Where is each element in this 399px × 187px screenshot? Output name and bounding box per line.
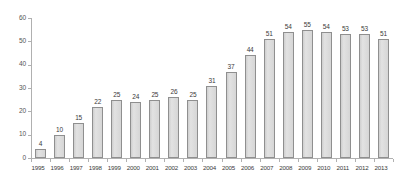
bar-slot: 53 xyxy=(336,18,355,158)
bar-value-label: 25 xyxy=(182,92,203,99)
x-axis-tick xyxy=(145,159,146,162)
bar[interactable] xyxy=(206,86,217,158)
bar-value-label: 26 xyxy=(163,89,184,96)
x-axis-tick xyxy=(69,159,70,162)
bar[interactable] xyxy=(378,39,389,158)
y-axis-tick-label: 20 xyxy=(6,108,26,115)
bar[interactable] xyxy=(92,107,103,158)
x-axis-tick xyxy=(355,159,356,162)
bar-slot: 37 xyxy=(222,18,241,158)
x-axis-tick xyxy=(298,159,299,162)
bar[interactable] xyxy=(73,123,84,158)
bar[interactable] xyxy=(302,30,313,158)
bar-slot: 24 xyxy=(126,18,145,158)
bar-slot: 51 xyxy=(260,18,279,158)
y-axis-tick-label: 0 xyxy=(6,155,26,162)
x-axis-tick xyxy=(202,159,203,162)
bar[interactable] xyxy=(340,34,351,158)
bar[interactable] xyxy=(168,97,179,158)
y-axis-tick-label: 60 xyxy=(6,15,26,22)
x-axis-tick xyxy=(241,159,242,162)
bar-value-label: 10 xyxy=(49,127,70,134)
bar-value-label: 53 xyxy=(335,26,356,33)
x-axis-tick xyxy=(183,159,184,162)
bar[interactable] xyxy=(54,135,65,158)
bar-value-label: 51 xyxy=(373,31,394,38)
bar-slot: 51 xyxy=(374,18,393,158)
bar-slot: 25 xyxy=(107,18,126,158)
bar-slot: 22 xyxy=(88,18,107,158)
bar-slot: 26 xyxy=(164,18,183,158)
x-axis-tick xyxy=(50,159,51,162)
x-axis-tick xyxy=(393,159,394,162)
y-axis-tick-label: 40 xyxy=(6,61,26,68)
bar-value-label: 15 xyxy=(68,115,89,122)
bar[interactable] xyxy=(359,34,370,158)
bar-value-label: 24 xyxy=(125,94,146,101)
bar-chart: 0102030405060 41015222524252625313744515… xyxy=(0,0,399,187)
bar-value-label: 31 xyxy=(202,78,223,85)
bar[interactable] xyxy=(321,32,332,158)
x-axis-tick xyxy=(88,159,89,162)
x-axis-tick xyxy=(222,159,223,162)
bar-slot: 54 xyxy=(317,18,336,158)
bar-slot: 25 xyxy=(183,18,202,158)
x-axis-labels: 1995199619971998199920002001200220032004… xyxy=(31,165,393,177)
bar[interactable] xyxy=(130,102,141,158)
bar-slot: 53 xyxy=(355,18,374,158)
bar-slot: 25 xyxy=(145,18,164,158)
bar[interactable] xyxy=(187,100,198,158)
bar-slot: 10 xyxy=(50,18,69,158)
y-axis-tick-label: 10 xyxy=(6,131,26,138)
bar-slot: 15 xyxy=(69,18,88,158)
bar-value-label: 4 xyxy=(30,141,51,148)
x-axis-tick xyxy=(31,159,32,162)
bar-slot: 44 xyxy=(241,18,260,158)
x-axis-tick xyxy=(126,159,127,162)
bar-value-label: 51 xyxy=(259,31,280,38)
y-axis-tick-label: 30 xyxy=(6,85,26,92)
bar[interactable] xyxy=(245,55,256,158)
bar-value-label: 25 xyxy=(106,92,127,99)
x-axis-tick xyxy=(164,159,165,162)
bar[interactable] xyxy=(149,100,160,158)
bar[interactable] xyxy=(226,72,237,158)
x-axis-tick xyxy=(374,159,375,162)
bar-value-label: 54 xyxy=(278,24,299,31)
bar-value-label: 54 xyxy=(316,24,337,31)
x-axis-tick xyxy=(107,159,108,162)
bar-value-label: 44 xyxy=(240,47,261,54)
bar-slot: 55 xyxy=(298,18,317,158)
x-axis-category-label: 2013 xyxy=(369,165,393,171)
bar-value-label: 37 xyxy=(221,64,242,71)
bar-series: 4101522252425262531374451545554535351 xyxy=(31,18,393,158)
bar-value-label: 55 xyxy=(297,22,318,29)
x-axis-tick xyxy=(317,159,318,162)
bar-slot: 4 xyxy=(31,18,50,158)
bar[interactable] xyxy=(35,149,46,158)
bar-slot: 54 xyxy=(279,18,298,158)
x-axis-tick xyxy=(260,159,261,162)
y-axis-tick-label: 50 xyxy=(6,38,26,45)
x-axis-tick xyxy=(279,159,280,162)
x-axis-tick xyxy=(336,159,337,162)
bar-value-label: 25 xyxy=(144,92,165,99)
bar-slot: 31 xyxy=(202,18,221,158)
bar[interactable] xyxy=(264,39,275,158)
bar-value-label: 53 xyxy=(354,26,375,33)
bar-value-label: 22 xyxy=(87,99,108,106)
x-axis-line xyxy=(31,158,393,159)
bar[interactable] xyxy=(283,32,294,158)
bar[interactable] xyxy=(111,100,122,158)
